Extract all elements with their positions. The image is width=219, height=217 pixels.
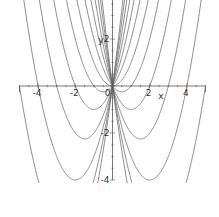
y-tick-label: -4 [101,175,110,185]
parabola-family-chart: -4 -2 2 4 2 -2 -4 0 x y [0,0,219,217]
x-tick-label: -2 [70,88,79,98]
x-tick-label: -4 [33,88,42,98]
y-axis-label: y [98,35,104,45]
x-tick-label: 4 [183,88,189,98]
axes-group [20,0,206,180]
origin-label: 0 [105,88,111,98]
y-tick-label: 2 [104,34,110,44]
y-tick-label: -2 [101,128,110,138]
x-axis-label: x [158,91,164,101]
x-tick-label: 2 [146,88,152,98]
